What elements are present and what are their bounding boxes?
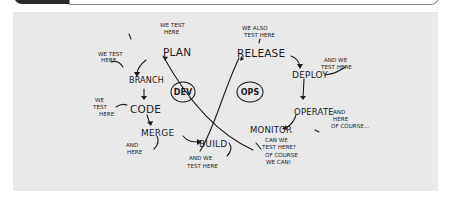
ops-label: OPS <box>241 88 260 97</box>
node-merge: MERGE <box>141 128 174 138</box>
note-release-2: TEST HERE <box>243 32 275 38</box>
toolbar-tab[interactable] <box>14 0 70 4</box>
toolbar-field[interactable] <box>69 0 439 5</box>
node-code: CODE <box>130 103 161 115</box>
note-merge-2: HERE <box>127 149 143 155</box>
top-toolbar <box>14 0 438 5</box>
node-branch: BRANCH <box>129 76 164 85</box>
note-operate-3: OF COURSE... <box>331 123 369 129</box>
note-code-1: WE <box>95 97 105 103</box>
node-build: BUILD <box>199 139 227 149</box>
note-plan-2: HERE <box>164 29 180 35</box>
note-monitor-1: CAN WE <box>265 137 288 143</box>
note-code-3: HERE <box>99 111 115 117</box>
note-build-2: TEST HERE <box>186 163 218 169</box>
note-release-1: WE ALSO <box>242 25 268 31</box>
note-operate-1: AND <box>333 109 345 115</box>
dev-label: DEV <box>174 88 193 97</box>
node-deploy: DEPLOY <box>292 70 328 80</box>
note-monitor-4: WE CAN! <box>266 159 291 165</box>
note-plan-1: WE TEST <box>160 22 185 28</box>
note-monitor-2: TEST HERE? <box>261 144 296 150</box>
note-code-2: TEST <box>92 104 108 110</box>
devops-diagram-image: DEV OPS PLAN BRANCH CODE MERGE BUILD REL… <box>13 12 438 191</box>
note-build-1: AND WE <box>189 155 213 161</box>
note-branch-2: HERE <box>101 57 117 63</box>
node-plan: PLAN <box>163 46 191 58</box>
diagram-canvas: DEV OPS PLAN BRANCH CODE MERGE BUILD REL… <box>13 12 438 191</box>
note-merge-1: AND <box>126 142 138 148</box>
node-monitor: MONITOR <box>250 125 292 135</box>
note-deploy-2: TEST HERE <box>320 64 352 70</box>
note-operate-2: HERE <box>333 116 349 122</box>
node-operate: OPERATE <box>294 107 334 117</box>
node-release: RELEASE <box>237 47 285 59</box>
note-monitor-3: OF COURSE <box>265 152 298 158</box>
note-deploy-1: AND WE <box>324 57 348 63</box>
